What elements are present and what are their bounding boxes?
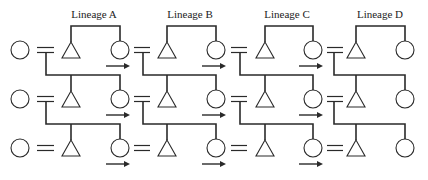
exchange-arrow-icon <box>317 112 323 118</box>
male-triangle-icon <box>62 91 80 107</box>
male-triangle-icon <box>158 140 176 156</box>
exchange-arrow-icon <box>124 63 130 69</box>
female-circle-icon <box>396 90 414 108</box>
descent-line <box>143 53 216 90</box>
exchange-arrow-icon <box>220 112 226 118</box>
female-circle-icon <box>304 139 322 157</box>
female-circle-icon <box>111 41 129 59</box>
descent-line <box>334 53 405 90</box>
descent-line <box>265 26 313 42</box>
female-circle-icon <box>111 139 129 157</box>
female-circle-icon <box>111 90 129 108</box>
descent-line <box>356 26 405 42</box>
male-triangle-icon <box>158 42 176 58</box>
lineage-label-d: Lineage D <box>357 8 403 20</box>
female-circle-icon <box>304 90 322 108</box>
female-circle-icon <box>11 41 29 59</box>
exchange-arrow-icon <box>317 161 323 167</box>
male-triangle-icon <box>347 140 365 156</box>
descent-line <box>46 102 120 139</box>
female-circle-icon <box>304 41 322 59</box>
exchange-arrow-icon <box>220 63 226 69</box>
lineage-label-a: Lineage A <box>71 8 117 20</box>
female-circle-icon <box>11 139 29 157</box>
male-triangle-icon <box>158 91 176 107</box>
descent-line <box>240 53 313 90</box>
exchange-arrow-icon <box>124 161 130 167</box>
male-triangle-icon <box>256 91 274 107</box>
female-circle-icon <box>396 139 414 157</box>
exchange-arrow-icon <box>124 112 130 118</box>
female-circle-icon <box>207 41 225 59</box>
lineage-label-b: Lineage B <box>167 8 213 20</box>
male-triangle-icon <box>62 140 80 156</box>
diagram-svg <box>0 0 428 180</box>
male-triangle-icon <box>347 91 365 107</box>
descent-line <box>240 102 313 139</box>
exchange-arrow-icon <box>220 161 226 167</box>
female-circle-icon <box>11 90 29 108</box>
descent-line <box>167 26 216 42</box>
female-circle-icon <box>207 90 225 108</box>
descent-line <box>143 102 216 139</box>
male-triangle-icon <box>256 140 274 156</box>
male-triangle-icon <box>347 42 365 58</box>
lineage-diagram: Lineage A Lineage B Lineage C Lineage D <box>0 0 428 180</box>
female-circle-icon <box>396 41 414 59</box>
female-circle-icon <box>207 139 225 157</box>
descent-line <box>334 102 405 139</box>
descent-line <box>46 53 120 90</box>
male-triangle-icon <box>256 42 274 58</box>
lineage-label-c: Lineage C <box>264 8 310 20</box>
descent-line <box>71 26 120 42</box>
male-triangle-icon <box>62 42 80 58</box>
exchange-arrow-icon <box>317 63 323 69</box>
